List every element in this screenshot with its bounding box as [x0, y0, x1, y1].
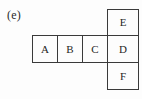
- grid-cell-f: F: [107, 62, 139, 90]
- panel-label: (e): [7, 8, 21, 22]
- grid-cell-label: B: [66, 43, 73, 54]
- grid-cell-label: E: [120, 17, 127, 28]
- grid-cell-c: C: [82, 35, 108, 63]
- net-grid: E A B C D F: [32, 9, 139, 90]
- grid-cell-d: D: [107, 35, 139, 63]
- grid-cell-a: A: [32, 35, 58, 63]
- grid-cell-label: D: [119, 43, 127, 54]
- grid-cell-label: F: [120, 70, 126, 81]
- grid-cell-label: A: [41, 43, 49, 54]
- figure-panel: (e) E A B C D F: [0, 0, 142, 99]
- grid-cell-b: B: [57, 35, 83, 63]
- grid-cell-label: C: [91, 43, 98, 54]
- grid-cell-e: E: [107, 9, 139, 36]
